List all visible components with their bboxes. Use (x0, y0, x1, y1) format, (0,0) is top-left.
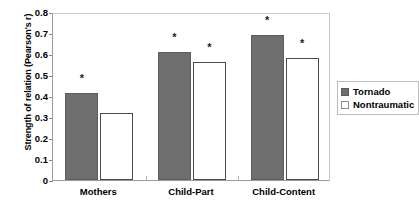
x-tick-label-child-content: Child-Content (252, 186, 315, 197)
bar-child-content-tornado (251, 35, 284, 180)
y-tick-label: 0 (18, 176, 48, 186)
legend-swatch-filled-icon (341, 88, 349, 96)
significance-marker: * (207, 42, 211, 53)
bar-group: ** (238, 14, 331, 180)
bar-child-part-tornado (158, 52, 191, 180)
x-tick-label-child-part: Child-Part (168, 186, 213, 197)
y-tick-label: 0.8 (18, 8, 48, 18)
bar-child-part-nontraumatic (193, 62, 226, 180)
legend-swatch-empty-icon (341, 101, 349, 109)
significance-marker: * (265, 15, 269, 26)
y-tick-label: 0.3 (18, 113, 48, 123)
legend-item-nontraumatic: Nontraumatic (341, 98, 414, 111)
x-tick-label-mothers: Mothers (80, 186, 117, 197)
y-tick-label: 0.4 (18, 92, 48, 102)
bars-layer: ***** (53, 14, 329, 180)
bar-mothers-nontraumatic (100, 113, 133, 180)
bar-mothers-tornado (65, 93, 98, 180)
y-tick-label: 0.2 (18, 134, 48, 144)
y-tick-label: 0.7 (18, 29, 48, 39)
bar-group: * (53, 14, 146, 180)
plot-area: ***** (52, 13, 330, 181)
bar-child-content-nontraumatic (286, 58, 319, 180)
chart-legend: TornadoNontraumatic (337, 81, 419, 115)
y-tick-label: 0.6 (18, 50, 48, 60)
x-axis-tick-labels: MothersChild-PartChild-Content (52, 186, 330, 206)
significance-marker: * (172, 32, 176, 43)
significance-marker: * (80, 73, 84, 84)
y-tick-mark (49, 181, 53, 182)
significance-marker: * (300, 38, 304, 49)
legend-item-tornado: Tornado (341, 85, 414, 98)
y-tick-label: 0.5 (18, 71, 48, 81)
y-tick-label: 0.1 (18, 155, 48, 165)
y-axis-tick-labels: 00.10.20.30.40.50.60.70.8 (18, 0, 48, 214)
bar-group: ** (146, 14, 239, 180)
legend-label: Nontraumatic (353, 100, 414, 110)
legend-label: Tornado (353, 87, 390, 97)
